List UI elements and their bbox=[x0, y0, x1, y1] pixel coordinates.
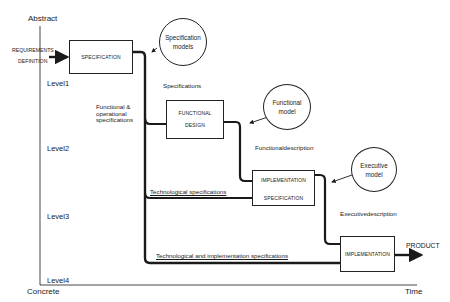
functional-design-box: FUNCTIONAL DESIGN bbox=[166, 100, 224, 139]
requirements-label-line2: DEFINITION bbox=[18, 58, 47, 64]
functional-operational-label: Functional & operational specifications bbox=[96, 104, 133, 124]
implementation-spec-label-2: SPECIFICATION bbox=[253, 195, 314, 201]
specifications-label: Specifications bbox=[163, 82, 201, 89]
func-op-line-3: specifications bbox=[96, 116, 133, 123]
executive-description-label: Executivedescription bbox=[340, 210, 397, 217]
implementation-box: IMPLEMENTATION bbox=[340, 236, 395, 272]
functional-model-text-1: Functional bbox=[272, 99, 301, 106]
technological-specifications-label: Technological specifications bbox=[150, 188, 226, 195]
specification-models-circle: Specificationmodels bbox=[159, 18, 207, 66]
requirements-label-line1: REQUIREMENTS bbox=[12, 47, 54, 53]
level-3-label: Level3 bbox=[47, 212, 69, 221]
spec-model-text-1: Specification bbox=[165, 34, 201, 41]
executive-model-text-1: Executive bbox=[360, 162, 387, 169]
level-2-label: Level2 bbox=[47, 144, 69, 153]
executive-model-text-2: model bbox=[365, 171, 382, 178]
executive-model-circle: Executivemodel bbox=[351, 147, 397, 192]
functional-model-text-2: model bbox=[278, 108, 295, 115]
level-1-label: Level1 bbox=[47, 79, 69, 88]
implementation-box-label: IMPLEMENTATION bbox=[341, 251, 394, 257]
spec-model-text-2: models bbox=[173, 43, 193, 50]
functional-model-circle: Functionalmodel bbox=[263, 84, 311, 130]
level-4-label: Level4 bbox=[47, 276, 69, 285]
functional-description-label: Functionaldescription bbox=[255, 144, 313, 151]
specification-box: SPECIFICATION bbox=[69, 40, 133, 74]
specification-box-label: SPECIFICATION bbox=[70, 54, 132, 60]
axis-label-concrete: Concrete bbox=[27, 287, 59, 296]
axis-label-time: Time bbox=[405, 287, 422, 296]
axis-label-abstract: Abstract bbox=[28, 14, 57, 23]
functional-design-label-2: DESIGN bbox=[167, 122, 223, 128]
tech-impl-specifications-label: Technological and implementation specifi… bbox=[156, 252, 288, 259]
implementation-specification-box: IMPLEMENTATION SPECIFICATION bbox=[252, 170, 315, 206]
product-label: PRODUCT bbox=[406, 242, 440, 249]
functional-design-label-1: FUNCTIONAL bbox=[167, 110, 223, 116]
implementation-spec-label-1: IMPLEMENTATION bbox=[253, 177, 314, 183]
